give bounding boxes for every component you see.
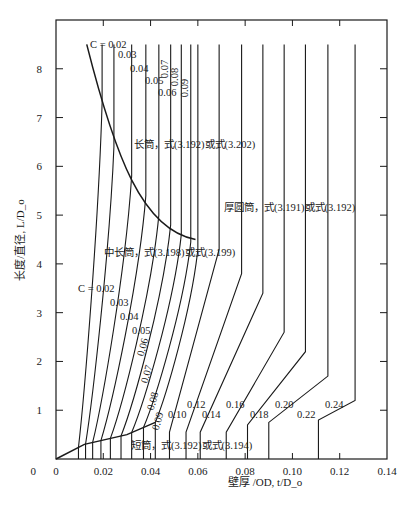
y-tick-label: 4 (37, 258, 43, 270)
c-label-lower-rotated: 0.07 (139, 364, 154, 385)
y-tick-label: 1 (37, 404, 43, 416)
c-label-bottom: 0.20 (275, 399, 293, 410)
x-tick-label: 0 (53, 465, 59, 477)
c-label-upper: 0.04 (130, 63, 149, 74)
x-axis-label: 壁厚 /OD, t/D_o (228, 475, 303, 488)
c-label-bottom: 0.18 (250, 409, 268, 420)
c-label-upper: 0.06 (158, 87, 176, 98)
y-tick-label: 8 (37, 63, 43, 75)
c-label-lower-rotated: 0.09 (150, 411, 165, 432)
plot-frame (56, 20, 387, 459)
region-label-thick: 厚圆筒，式(3.191)或式(3.192) (224, 201, 356, 214)
y-axis-label: 长度/直径, L/D_o (13, 199, 26, 281)
y-tick-label: 2 (37, 355, 43, 367)
c-label-bottom: 0.22 (297, 409, 315, 420)
curve-c-0_02 (78, 44, 102, 459)
curve-c-0_22 (269, 44, 328, 459)
x-tick-label: 0.02 (94, 465, 113, 477)
region-label-long: 长筒，式(3.192)或式(3.202) (134, 138, 256, 151)
c-label-lower-rotated: 0.08 (145, 391, 160, 412)
curve-c-0_20 (248, 44, 306, 459)
y-tick-label: 3 (37, 307, 43, 319)
c-label-upper: 0.03 (118, 49, 136, 60)
c-label-bottom: 0.24 (325, 399, 344, 410)
x-tick-label: 0.06 (188, 465, 208, 477)
c-label-lower: 0.04 (120, 311, 139, 322)
chart-svg: 00.020.040.060.080.100.120.14012345678 C… (0, 0, 416, 512)
x-tick-label: 0.04 (141, 465, 161, 477)
c-label-upper-rotated: 0.09 (179, 79, 190, 97)
x-tick-label: 0.14 (377, 465, 397, 477)
y-tick-label: 6 (37, 160, 43, 172)
c-label-bottom: 0.16 (226, 399, 244, 410)
c-label-lower: 0.03 (110, 297, 128, 308)
chart-container: 00.020.040.060.080.100.120.14012345678 C… (0, 0, 416, 512)
c-label-lower: 0.05 (132, 325, 150, 336)
y-tick-label: 0 (31, 465, 37, 477)
region-label-intermediate: 中长筒，式(3.198)或式(3.199) (104, 246, 236, 259)
x-tick-label: 0.12 (330, 465, 349, 477)
y-tick-label: 5 (37, 209, 43, 221)
curve-c-0_24 (318, 44, 355, 459)
c-label-bottom: 0.14 (202, 409, 221, 420)
region-label-short: 短筒，式(3.192)或式(3.194) (131, 439, 253, 452)
c-label-lower: C = 0.02 (78, 283, 115, 294)
c-label-bottom: 0.10 (168, 409, 186, 420)
y-tick-label: 7 (37, 112, 43, 124)
